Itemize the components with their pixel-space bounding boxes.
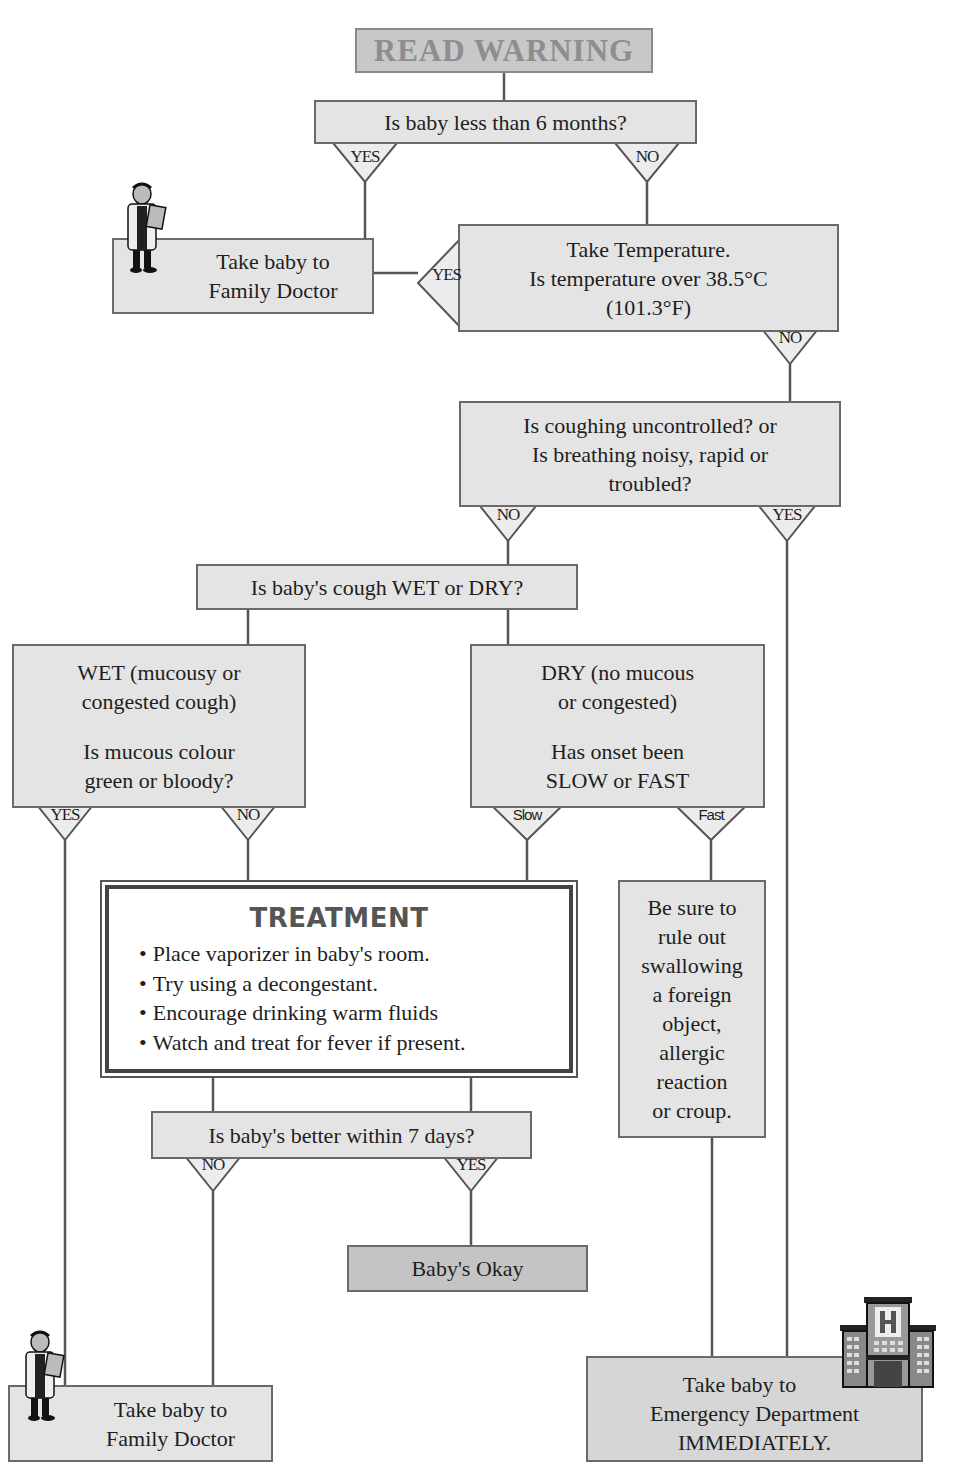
dry-line2: or congested) [558, 687, 677, 716]
rule-out-line: reaction [657, 1067, 728, 1096]
baby-okay-box: Baby's Okay [347, 1245, 588, 1292]
better-yes-label: YES [446, 1156, 496, 1173]
treatment-box: TREATMENT Place vaporizer in baby's room… [100, 880, 578, 1078]
rule-out-line: swallowing [641, 951, 742, 980]
baby-okay-text: Baby's Okay [411, 1254, 523, 1283]
read-warning-text: READ WARNING [374, 36, 634, 65]
dry-slow-label: Slow [497, 806, 557, 823]
temperature-line1: Take Temperature. [567, 235, 731, 264]
breath-yes-label: YES [762, 506, 812, 523]
better-no-label: NO [188, 1156, 238, 1173]
emergency-line1: Take baby to [683, 1370, 796, 1399]
temperature-line3: (101.3°F) [606, 293, 691, 322]
family-doctor-top-line2: Family Doctor [209, 276, 338, 305]
temp-no-label: NO [765, 329, 815, 346]
rule-out-box: Be sure to rule out swallowing a foreign… [618, 880, 766, 1138]
emergency-line2: Emergency Department [650, 1399, 859, 1428]
age-question-box: Is baby less than 6 months? [314, 100, 697, 144]
rule-out-line: rule out [658, 922, 726, 951]
breathing-line2: Is breathing noisy, rapid or [532, 440, 768, 469]
dry-line3: Has onset been [551, 737, 684, 766]
read-warning-header: READ WARNING [355, 28, 653, 73]
rule-out-line: or croup. [652, 1096, 731, 1125]
dry-cough-box: DRY (no mucous or congested) Has onset b… [470, 644, 765, 808]
treatment-item: Watch and treat for fever if present. [139, 1028, 569, 1058]
breath-no-label: NO [483, 506, 533, 523]
wet-line4: green or bloody? [84, 766, 233, 795]
family-doctor-top-line1: Take baby to [216, 247, 329, 276]
treatment-title: TREATMENT [109, 903, 569, 933]
treatment-item: Encourage drinking warm fluids [139, 998, 569, 1028]
treatment-inner: TREATMENT Place vaporizer in baby's room… [105, 885, 573, 1073]
age-question-text: Is baby less than 6 months? [384, 108, 627, 137]
family-doctor-bottom-line2: Family Doctor [106, 1424, 235, 1453]
age-no-label: NO [622, 148, 672, 165]
dry-fast-label: Fast [681, 806, 741, 823]
breathing-line3: troubled? [608, 469, 691, 498]
wet-line1: WET (mucousy or [77, 658, 240, 687]
doctor-icon [120, 180, 170, 275]
hospital-icon [838, 1295, 938, 1390]
breathing-question-box: Is coughing uncontrolled? or Is breathin… [459, 401, 841, 507]
family-doctor-bottom-line1: Take baby to [114, 1395, 227, 1424]
wet-yes-label: YES [40, 806, 90, 823]
dry-line1: DRY (no mucous [541, 658, 694, 687]
doctor-icon [18, 1328, 68, 1423]
wet-line3: Is mucous colour [83, 737, 235, 766]
better-question-box: Is baby's better within 7 days? [151, 1111, 532, 1159]
wet-no-label: NO [223, 806, 273, 823]
treatment-item: Place vaporizer in baby's room. [139, 939, 569, 969]
temp-yes-label: YES [424, 266, 469, 283]
breathing-line1: Is coughing uncontrolled? or [523, 411, 777, 440]
treatment-list: Place vaporizer in baby's room. Try usin… [139, 939, 569, 1057]
cough-type-text: Is baby's cough WET or DRY? [251, 573, 524, 602]
wet-line2: congested cough) [82, 687, 237, 716]
temperature-box: Take Temperature. Is temperature over 38… [458, 224, 839, 332]
wet-cough-box: WET (mucousy or congested cough) Is muco… [12, 644, 306, 808]
rule-out-line: allergic [659, 1038, 725, 1067]
temperature-line2: Is temperature over 38.5°C [529, 264, 768, 293]
better-question-text: Is baby's better within 7 days? [208, 1121, 474, 1150]
rule-out-line: Be sure to [647, 893, 736, 922]
emergency-line3: IMMEDIATELY. [678, 1428, 831, 1457]
cough-type-box: Is baby's cough WET or DRY? [196, 564, 578, 610]
dry-line4: SLOW or FAST [546, 766, 689, 795]
treatment-item: Try using a decongestant. [139, 969, 569, 999]
age-yes-label: YES [340, 148, 390, 165]
rule-out-line: object, [662, 1009, 721, 1038]
rule-out-line: a foreign [653, 980, 732, 1009]
